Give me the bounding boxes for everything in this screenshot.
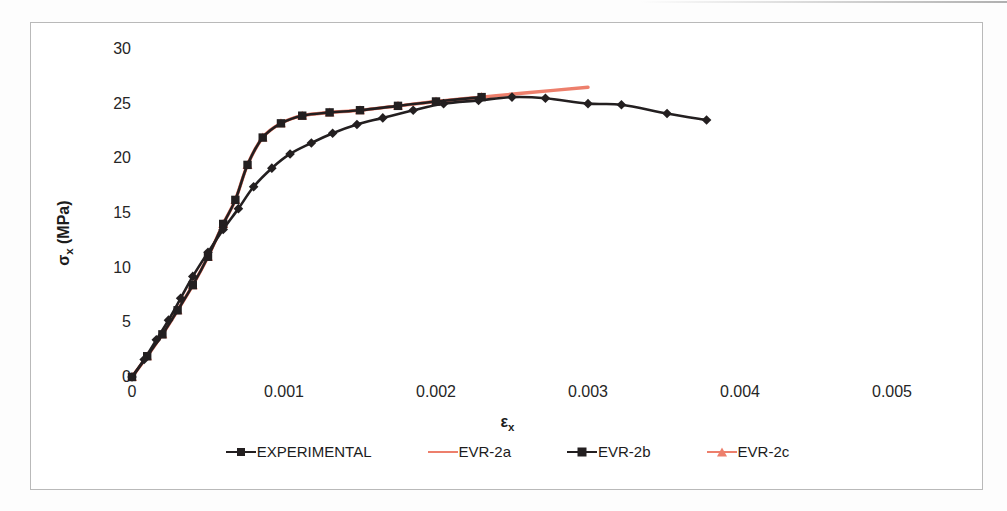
data-point-marker [541,93,551,103]
legend-marker-diamond-icon [237,448,245,456]
scan-edge-artifact [640,1,1007,3]
x-tick-label: 0.001 [264,383,304,401]
y-axis-ticks: 051015202530 [87,45,131,377]
series-evr-2c [127,92,487,381]
data-point-marker [231,196,239,204]
page-canvas: σx (MPa) 051015202530 00.0010.0020.0030.… [0,0,1007,511]
x-axis-symbol: ε [501,413,509,430]
y-axis-title-text: σx (MPa) [55,200,75,265]
data-point-marker [259,133,267,141]
series-line [132,97,482,377]
legend-item-evr-2b[interactable]: EVR-2b [567,443,651,460]
data-point-marker [583,99,593,109]
series-evr-2a [132,87,588,377]
data-point-marker [408,105,418,115]
data-point-marker [378,113,388,123]
y-tick-label: 25 [113,95,131,113]
y-tick-label: 10 [113,259,131,277]
legend-label: EXPERIMENTAL [257,443,372,460]
y-tick-label: 20 [113,149,131,167]
x-axis-ticks: 00.0010.0020.0030.0040.005 [132,383,922,407]
series-line [132,97,482,377]
y-tick-label: 15 [113,204,131,222]
series-line [132,87,588,377]
x-tick-label: 0.002 [416,383,456,401]
chart-frame: σx (MPa) 051015202530 00.0010.0020.0030.… [30,22,983,490]
data-point-marker [325,108,333,116]
data-point-marker [617,100,627,110]
x-tick-label: 0 [128,383,137,401]
data-point-marker [356,106,364,114]
x-tick-label: 0.003 [568,383,608,401]
data-point-marker [662,109,672,119]
data-point-marker [298,111,306,119]
data-point-marker [307,138,317,148]
legend-key-none-icon [428,445,458,459]
data-point-marker [394,102,402,110]
x-tick-label: 0.004 [720,383,760,401]
x-axis-title: εx [31,413,984,433]
y-axis-subscript: x [63,248,75,254]
data-point-marker [277,119,285,127]
data-point-marker [702,115,712,125]
legend-marker-triangle-icon [717,447,727,456]
y-tick-label: 30 [113,40,131,58]
series-evr-2b [128,93,486,381]
x-tick-label: 0.005 [872,383,912,401]
chart-legend: EXPERIMENTALEVR-2aEVR-2bEVR-2c [31,443,984,460]
plot-area [132,49,892,377]
legend-item-experimental[interactable]: EXPERIMENTAL [226,443,372,460]
legend-marker-square-icon [578,447,587,456]
y-axis-symbol: σ [55,255,72,266]
legend-label: EVR-2b [598,443,651,460]
chart-svg [132,49,892,377]
legend-label: EVR-2c [738,443,790,460]
series-line [132,97,707,377]
legend-key-square-icon [567,445,597,459]
y-axis-unit: (MPa) [55,200,72,248]
data-point-marker [352,120,362,130]
legend-key-diamond-icon [226,445,256,459]
legend-key-triangle-icon [707,445,737,459]
legend-item-evr-2a[interactable]: EVR-2a [428,443,512,460]
y-tick-label: 5 [122,313,131,331]
y-axis-title: σx (MPa) [45,173,85,293]
x-axis-subscript: x [508,421,514,433]
legend-item-evr-2c[interactable]: EVR-2c [707,443,790,460]
data-point-marker [243,161,251,169]
series-experimental [127,92,711,382]
legend-line-swatch [428,451,458,453]
legend-label: EVR-2a [459,443,512,460]
data-point-marker [328,128,338,138]
